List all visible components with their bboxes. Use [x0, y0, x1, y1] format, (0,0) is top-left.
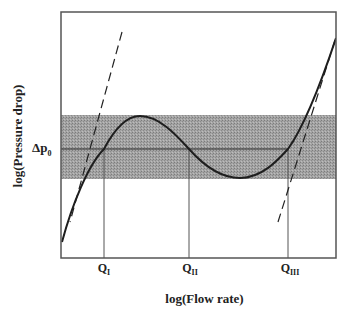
delta-p-subscript: 0	[47, 149, 51, 158]
q1-symbol: Q	[98, 261, 107, 275]
q2-label: QII	[182, 261, 198, 277]
pressure-band	[61, 115, 336, 179]
q2-symbol: Q	[182, 261, 191, 275]
x-axis-label: log(Flow rate)	[0, 291, 349, 307]
pressure-drop-diagram: log(Pressure drop) Δp0 QI QII QIII log(F…	[0, 0, 349, 317]
q3-label: QIII	[281, 261, 300, 277]
q3-symbol: Q	[281, 261, 290, 275]
q3-subscript: III	[290, 268, 299, 277]
y-axis-label: log(Pressure drop)	[10, 66, 26, 206]
q1-subscript: I	[107, 268, 110, 277]
q1-label: QI	[98, 261, 110, 277]
delta-p-symbol: Δp	[32, 140, 47, 155]
delta-p0-label: Δp0	[32, 140, 51, 158]
q2-subscript: II	[192, 268, 198, 277]
